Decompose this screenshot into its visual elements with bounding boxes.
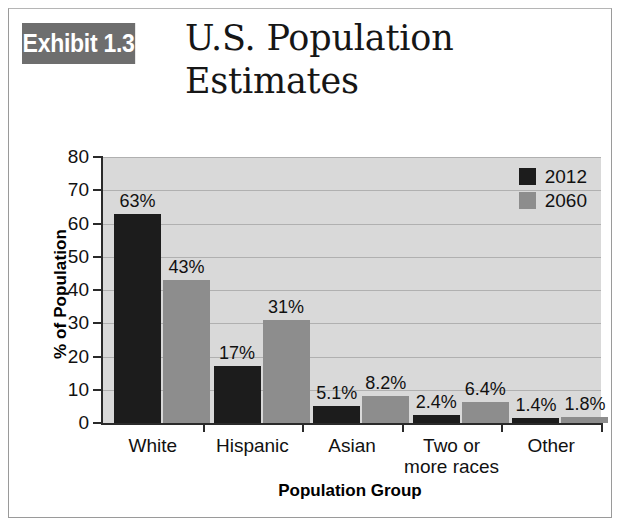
bar[interactable]: 63%: [114, 214, 161, 423]
bar-value-label: 1.8%: [564, 394, 605, 415]
y-axis-tick: [93, 389, 103, 391]
legend-item[interactable]: 2012: [519, 167, 587, 186]
bar-value-label: 2.4%: [416, 392, 457, 413]
exhibit-frame: Exhibit 1.3 U.S. Population Estimates % …: [8, 8, 612, 518]
x-axis-category-label-line-1: Hispanic: [216, 435, 289, 456]
x-axis-category-label-line-1: White: [129, 435, 178, 456]
bar-group: 17%31%: [203, 157, 303, 423]
y-axis-tick: [93, 356, 103, 358]
bar-value-label: 43%: [168, 257, 204, 278]
x-axis-category-label-line-1: Two or: [423, 435, 480, 456]
plot-area: 01020304050607080 63%43%17%31%5.1%8.2%2.…: [101, 157, 601, 425]
page-title: U.S. Population Estimates: [185, 17, 595, 104]
bar-chart: % of Population 01020304050607080 63%43%…: [9, 129, 613, 519]
bar-group: 2.4%6.4%: [402, 157, 502, 423]
bar-value-label: 1.4%: [515, 395, 556, 416]
y-axis-tick: [93, 422, 103, 424]
bar[interactable]: 2.4%: [413, 415, 460, 423]
x-axis-tick: [501, 423, 503, 432]
bar[interactable]: 1.4%: [512, 418, 559, 423]
x-axis-tick: [203, 423, 205, 432]
y-axis-tick: [93, 256, 103, 258]
y-axis-tick: [93, 322, 103, 324]
x-axis-tick: [402, 423, 404, 432]
bar[interactable]: 5.1%: [313, 406, 360, 423]
y-axis-tick-label: 10: [68, 379, 89, 401]
bar-value-label: 8.2%: [365, 373, 406, 394]
y-axis-tick: [93, 289, 103, 291]
bar-value-label: 31%: [268, 297, 304, 318]
x-axis-category-label-line-1: Other: [527, 435, 575, 456]
exhibit-header: Exhibit 1.3 U.S. Population Estimates: [9, 9, 613, 129]
y-axis-tick: [93, 189, 103, 191]
bar-value-label: 63%: [119, 191, 155, 212]
legend-swatch-icon: [519, 168, 536, 185]
y-axis-tick-label: 30: [68, 312, 89, 334]
bar-value-label: 6.4%: [465, 379, 506, 400]
bar-group: 5.1%8.2%: [302, 157, 402, 423]
bar-value-label: 17%: [219, 343, 255, 364]
y-axis-tick: [93, 223, 103, 225]
y-axis-tick-label: 70: [68, 179, 89, 201]
chart-legend: 20122060: [519, 167, 587, 210]
bar-group: 63%43%: [103, 157, 203, 423]
y-axis-tick-label: 40: [68, 279, 89, 301]
x-axis-tick: [302, 423, 304, 432]
page-title-line-1: U.S. Population: [185, 17, 595, 60]
exhibit-number-badge: Exhibit 1.3: [22, 23, 135, 64]
y-axis-tick-label: 50: [68, 246, 89, 268]
bar-value-label: 5.1%: [316, 383, 357, 404]
legend-swatch-icon: [519, 192, 536, 209]
legend-label: 2012: [545, 167, 587, 186]
x-axis-category-label-line-1: Asian: [328, 435, 376, 456]
y-axis-tick-label: 0: [78, 412, 89, 434]
legend-label: 2060: [545, 191, 587, 210]
legend-item[interactable]: 2060: [519, 191, 587, 210]
x-axis-tick: [601, 423, 603, 432]
x-axis-category-label-line-2: more races: [392, 456, 512, 477]
y-axis-tick-label: 20: [68, 346, 89, 368]
x-axis-title: Population Group: [101, 481, 599, 501]
y-axis-tick-label: 80: [68, 146, 89, 168]
y-axis-tick: [93, 156, 103, 158]
x-axis-category-label: Other: [491, 435, 611, 456]
bar[interactable]: 17%: [214, 366, 261, 423]
page-title-line-2: Estimates: [185, 60, 595, 103]
y-axis-tick-label: 60: [68, 213, 89, 235]
